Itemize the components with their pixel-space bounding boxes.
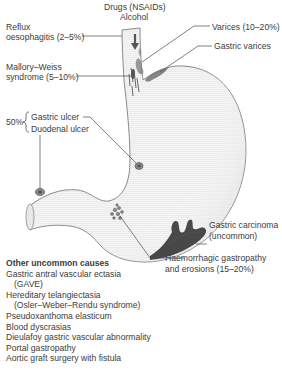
reflux-label-2: oesophagitis (2–5%) xyxy=(6,32,84,43)
haemorrhagic-label-1: Haemorrhagic gastropathy xyxy=(165,253,266,264)
gastric-varices-label: Gastric varices xyxy=(214,41,271,52)
mallory-weiss-label-2: syndrome (5–10%) xyxy=(6,72,79,83)
list-item: Pseudoxanthoma elasticum xyxy=(6,311,151,322)
gastric-carcinoma-label-2: (uncommon) xyxy=(209,231,257,242)
list-item: (Osler–Weber–Rendu syndrome) xyxy=(6,300,151,311)
list-item: Portal gastropathy xyxy=(6,343,151,354)
alcohol-label: Alcohol xyxy=(120,12,148,23)
list-item: Hereditary telangiectasia xyxy=(6,290,151,301)
gastric-carcinoma-label-1: Gastric carcinoma xyxy=(209,220,278,231)
list-item: (GAVE) xyxy=(6,279,151,290)
list-item: Aortic graft surgery with fistula xyxy=(6,353,151,364)
drugs-label: Drugs (NSAIDs) xyxy=(104,2,166,13)
ulcer-percent-label: 50% xyxy=(6,117,23,128)
reflux-label-1: Reflux xyxy=(6,22,30,33)
list-item: Dieulafoy gastric vascular abnormality xyxy=(6,332,151,343)
duodenal-ulcer-label: Duodenal ulcer xyxy=(31,124,89,135)
other-causes-list: Other uncommon causes Gastric antral vas… xyxy=(6,258,151,364)
list-item: Gastric antral vascular ectasia xyxy=(6,269,151,280)
varices-label: Varices (10–20%) xyxy=(212,22,280,33)
gastric-ulcer-label: Gastric ulcer xyxy=(31,112,79,123)
list-item: Blood dyscrasias xyxy=(6,322,151,333)
mallory-weiss-label-1: Mallory–Weiss xyxy=(6,62,62,73)
other-causes-heading: Other uncommon causes xyxy=(6,258,151,269)
haemorrhagic-label-2: and erosions (15–20%) xyxy=(165,264,254,275)
ulcer-brace xyxy=(23,112,29,132)
